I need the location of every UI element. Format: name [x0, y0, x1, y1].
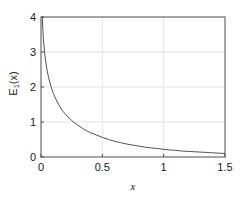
y-tick-label: 2 [20, 82, 36, 93]
y-axis-label: E1(x) [8, 54, 19, 114]
y-axis-label-subscript: 1 [12, 84, 21, 88]
chart-figure: 01234 00.511.5 x E1(x) [0, 0, 242, 200]
y-axis-label-tail: (x) [7, 71, 19, 84]
y-tick-label: 1 [20, 117, 36, 128]
x-tick-label: 0.5 [87, 162, 117, 173]
y-tick-label: 4 [20, 12, 36, 23]
gridlines [41, 17, 225, 157]
y-tick-label: 3 [20, 47, 36, 58]
data-series-curve [41, 0, 225, 153]
x-tick-label: 1.5 [210, 162, 240, 173]
x-tick-label: 0 [26, 162, 56, 173]
x-tick-label: 1 [149, 162, 179, 173]
y-axis-label-base: E [7, 88, 19, 95]
x-axis-label: x [118, 181, 148, 192]
series-line [41, 0, 225, 153]
